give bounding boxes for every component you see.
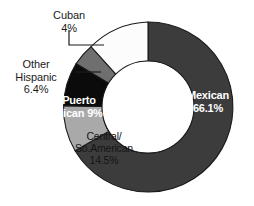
slice-callout-cuban: Cuban 4%: [41, 9, 97, 34]
slice-callout-other-hispanic-line-1: Other: [0, 58, 72, 71]
slice-label-mexican-line-2: 66.1%: [176, 102, 240, 115]
slice-label-puerto-rican: Puerto Rican 9%: [42, 94, 116, 119]
slice-label-mexican-line-1: Mexican: [176, 89, 240, 102]
slice-label-central-line-1: Central/: [62, 130, 146, 142]
slice-label-central-so-american: Central/ So.American 14.5%: [62, 130, 146, 166]
donut-chart: Cuban 4% Other Hispanic 6.4% Mexican 66.…: [0, 0, 254, 206]
slice-callout-other-hispanic-line-2: Hispanic: [0, 71, 72, 84]
slice-callout-cuban-line-2: 4%: [41, 22, 97, 35]
slice-label-puerto-rican-line-2: Rican 9%: [42, 107, 116, 120]
slice-label-mexican: Mexican 66.1%: [176, 89, 240, 114]
slice-label-puerto-rican-line-1: Puerto: [42, 94, 116, 107]
slice-callout-other-hispanic: Other Hispanic 6.4%: [0, 58, 72, 96]
slice-label-central-line-2: So.American: [62, 142, 146, 154]
slice-callout-cuban-line-1: Cuban: [41, 9, 97, 22]
slice-label-central-line-3: 14.5%: [62, 154, 146, 166]
